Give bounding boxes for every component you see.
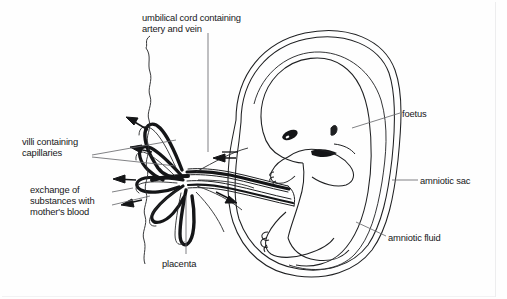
leader-exchange-2 [112, 188, 133, 192]
foetus-ear [331, 125, 337, 135]
umbilical-cord [186, 169, 295, 206]
leader-amniotic-fluid [356, 222, 386, 236]
leader-lines [92, 33, 418, 254]
foetus-mouth [311, 144, 355, 157]
arrow-villi-top [126, 117, 148, 130]
arrow-exchange-out [113, 175, 136, 183]
amniotic-fluid-boundary [254, 52, 386, 270]
label-exchange-of-substances: exchange of substances with mother's blo… [30, 184, 94, 217]
flow-arrows [113, 117, 238, 207]
foetus-arm [270, 149, 354, 186]
foetus-body [261, 58, 371, 266]
label-placenta: placenta [162, 258, 196, 269]
foetus-leg-foot [261, 212, 334, 257]
leader-villi [92, 140, 176, 155]
label-umbilical-cord: umbilical cord containing artery and vei… [142, 12, 241, 34]
label-amniotic-fluid: amniotic fluid [388, 232, 441, 243]
label-foetus: foetus [402, 108, 427, 119]
label-amniotic-sac: amniotic sac [420, 175, 470, 186]
label-villi-capillaries: villi containing capillaries [22, 136, 78, 158]
diagram-page: umbilical cord containing artery and vei… [0, 0, 507, 299]
foetus-eye [281, 128, 300, 143]
arrow-cord-out [216, 192, 237, 203]
leader-foetus [352, 113, 400, 128]
